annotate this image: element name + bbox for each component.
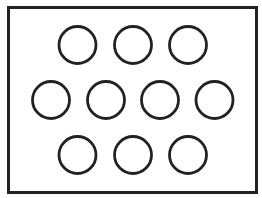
diagram-canvas: [0, 0, 262, 198]
top-row: [59, 27, 207, 64]
circle-shape: [115, 27, 152, 64]
circle-shape: [170, 27, 207, 64]
circle-shape: [142, 82, 179, 119]
circles-in-frame-diagram: [0, 0, 262, 198]
circle-shape: [33, 82, 70, 119]
middle-row: [33, 82, 234, 119]
circle-shape: [170, 137, 207, 174]
bottom-row: [59, 137, 207, 174]
frame-rectangle: [9, 8, 257, 193]
circle-shape: [59, 137, 96, 174]
circle-shape: [88, 82, 125, 119]
circle-group: [33, 27, 234, 174]
circle-shape: [196, 82, 233, 119]
circle-shape: [115, 137, 152, 174]
circle-shape: [59, 27, 96, 64]
